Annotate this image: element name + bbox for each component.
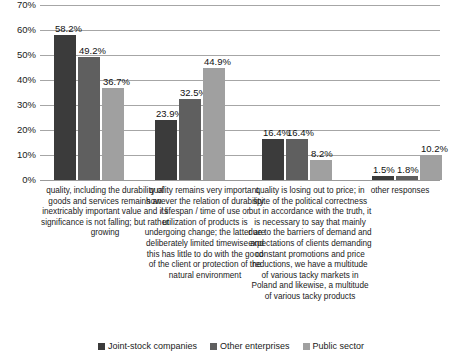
y-axis-tick: 10% [2,150,36,160]
y-axis-tick: 50% [2,50,36,60]
bar [286,139,308,180]
bar-chart: 70%60%50%40%30%20%10%0% 58.2%49.2%36.7%2… [0,0,462,363]
y-axis-tick: 0% [2,175,36,185]
chart-legend: Joint-stock companiesOther enterprisesPu… [0,338,462,354]
bar [155,120,177,180]
bars-layer: 58.2%49.2%36.7%23.9%32.5%44.9%16.4%16.4%… [40,0,440,185]
bar-value-label: 44.9% [204,56,231,67]
bar-group: 23.9%32.5%44.9% [155,5,225,180]
legend-swatch-icon [303,343,310,350]
category-label: other responses [355,186,445,197]
bar [54,35,76,181]
legend-label: Public sector [313,341,365,352]
bar-value-label: 8.2% [311,148,333,159]
y-axis-tick: 70% [2,0,36,10]
legend-label: Other enterprises [220,341,290,352]
bar-value-label: 1.5% [373,164,395,175]
plot-area: 70%60%50%40%30%20%10%0% 58.2%49.2%36.7%2… [0,0,462,185]
bar-value-label: 1.8% [397,164,419,175]
y-axis-tick: 20% [2,125,36,135]
bar-value-label: 16.4% [263,127,290,138]
y-axis-tick: 30% [2,100,36,110]
bar [102,88,124,180]
bar-value-label: 58.2% [55,23,82,34]
bar [78,57,100,180]
bar [203,68,225,180]
bar-group: 16.4%16.4%8.2% [262,5,332,180]
y-axis-tick: 40% [2,75,36,85]
category-label: quality is losing out to price; in spite… [248,186,372,303]
y-axis: 70%60%50%40%30%20%10%0% [0,0,40,185]
legend-swatch-icon [98,343,105,350]
bar [420,155,442,181]
bar [262,139,284,180]
legend-item: Joint-stock companies [98,341,197,352]
legend-swatch-icon [210,343,217,350]
legend-label: Joint-stock companies [108,341,197,352]
bar-group: 1.5%1.8%10.2% [372,5,442,180]
category-labels: quality, including the durability of goo… [40,186,440,331]
bar-value-label: 10.2% [421,143,448,154]
bar [396,176,418,181]
bar [310,160,332,181]
bar-value-label: 49.2% [79,45,106,56]
y-axis-tick: 60% [2,25,36,35]
bar-value-label: 36.7% [103,76,130,87]
bar-value-label: 16.4% [287,127,314,138]
legend-item: Other enterprises [210,341,290,352]
bar-group: 58.2%49.2%36.7% [54,5,124,180]
bar [179,99,201,180]
bar [372,176,394,180]
legend-item: Public sector [303,341,365,352]
